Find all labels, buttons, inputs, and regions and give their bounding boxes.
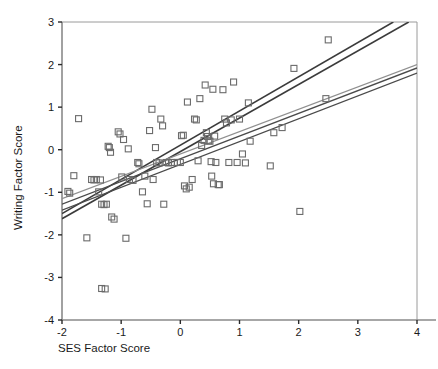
data-point-marker [242,160,248,166]
data-point-marker [226,159,232,165]
x-axis-title: SES Factor Score [58,342,150,354]
data-point-marker [197,96,203,102]
data-point-marker [115,129,121,135]
data-point-marker [111,216,117,222]
x-tick-label: -1 [116,326,126,338]
x-tick-label: 2 [296,326,302,338]
data-point-marker [84,235,90,241]
y-tick-label: -4 [44,314,54,326]
data-point-marker [149,106,155,112]
x-tick-label: 4 [414,326,420,338]
data-point-marker [161,201,167,207]
data-point-marker [202,82,208,88]
data-point-marker [231,79,237,85]
y-tick-label: 0 [48,144,54,156]
y-tick-label: 2 [48,59,54,71]
y-tick-label: 1 [48,101,54,113]
data-point-marker [123,235,129,241]
x-tick-label: 3 [355,326,361,338]
data-point-marker [291,65,297,71]
data-point-marker [220,87,226,93]
data-point-marker [325,37,331,43]
data-point-marker [189,177,195,183]
scatter-plot: -4-3-2-10123-2-101234 SES Factor Score W… [0,0,438,369]
data-point-marker [158,116,164,122]
data-point-marker [65,188,71,194]
data-point-marker [109,214,115,220]
data-point-marker [209,173,215,179]
data-point-marker [125,146,131,152]
figure-container: -4-3-2-10123-2-101234 SES Factor Score W… [0,0,438,369]
plot-frame-top-right [62,22,417,320]
data-point-marker [160,123,166,129]
regression-line-shallow-dark-middle [62,68,417,204]
y-tick-label: -2 [44,229,54,241]
regression-lines [62,22,417,219]
data-point-marker [184,99,190,105]
y-tick-label: -3 [44,271,54,283]
x-tick-label: 0 [177,326,183,338]
x-tick-label: -2 [57,326,67,338]
tick-marks [58,22,417,324]
data-point-marker [210,86,216,92]
data-point-marker [297,208,303,214]
data-point-marker [139,189,145,195]
data-point-marker [234,159,240,165]
y-tick-label: 3 [48,16,54,28]
data-point-marker [150,177,156,183]
regression-line-shallow-dark-lower [62,73,417,210]
data-point-marker [71,173,77,179]
data-point-marker [152,145,158,151]
plot-frame [62,22,436,320]
data-point-marker [144,201,150,207]
y-axis-title: Writing Factor Score [12,125,24,230]
x-tick-label: 1 [236,326,242,338]
data-point-marker [147,128,153,134]
data-point-marker [267,163,273,169]
data-point-marker [247,138,253,144]
regression-line-steep-dark-lower [62,22,409,219]
data-point-marker [76,116,82,122]
data-point-marker [239,151,245,157]
y-tick-label: -1 [44,186,54,198]
data-point-marker [271,130,277,136]
data-points [65,37,331,292]
